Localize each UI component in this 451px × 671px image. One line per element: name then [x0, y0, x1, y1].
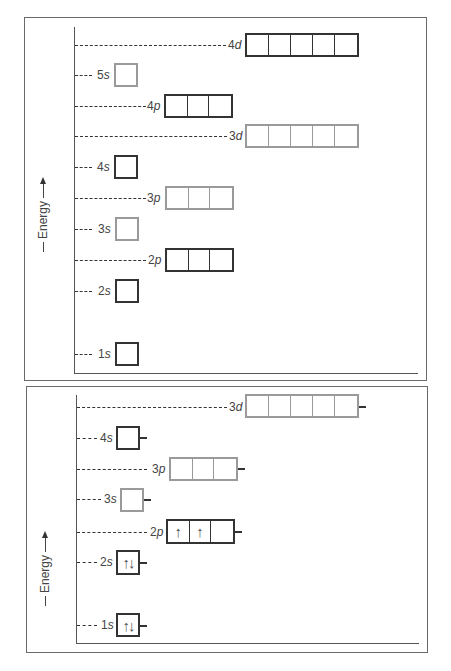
- orbital-label-5s: 5s: [97, 69, 110, 81]
- orbital-5s: [114, 63, 138, 87]
- orbital-label-3p: 3p: [152, 463, 165, 475]
- orbital-box: [193, 459, 215, 479]
- orbital-box: [167, 188, 189, 208]
- orbital-box: [117, 281, 137, 301]
- orbital-1s: [115, 342, 139, 366]
- level-line-1s: [77, 625, 97, 626]
- orbital-box: [210, 188, 232, 208]
- orbital-box: [118, 428, 138, 448]
- orbital-box: [211, 521, 233, 542]
- level-tick: [359, 406, 366, 408]
- level-tick: [140, 437, 147, 439]
- arrow-shaft: [43, 184, 44, 198]
- orbital-box: [189, 250, 211, 270]
- arrow-up-icon: [40, 177, 46, 184]
- orbital-box: [122, 490, 142, 510]
- baseline-axis: [76, 643, 419, 644]
- orbital-box: [167, 250, 189, 270]
- orbital-label-2p: 2p: [148, 254, 161, 266]
- orbital-3s: [115, 217, 139, 241]
- orbital-box: [291, 35, 313, 55]
- level-line-4s: [77, 438, 97, 439]
- level-tick: [144, 499, 151, 501]
- energy-axis-label: Energy: [38, 524, 52, 606]
- level-tick: [140, 625, 147, 627]
- orbital-label-3d: 3d: [229, 401, 242, 413]
- orbital-box: [313, 35, 335, 55]
- orbital-label-4d: 4d: [228, 39, 241, 51]
- orbital-box: ↑: [168, 521, 190, 542]
- baseline-axis: [74, 373, 418, 374]
- orbital-box: [166, 96, 188, 116]
- level-line-3d: [77, 407, 227, 408]
- orbital-2s: [115, 279, 139, 303]
- orbital-box: [269, 396, 291, 416]
- orbital-box: [269, 126, 291, 146]
- orbital-label-3s: 3s: [98, 223, 111, 235]
- orbital-box: [116, 157, 136, 177]
- axis-label-line: [43, 242, 44, 252]
- arrow-up-icon: [42, 531, 48, 538]
- orbital-box: [116, 65, 136, 85]
- orbital-box: [189, 188, 211, 208]
- orbital-4p: [164, 94, 233, 118]
- orbital-box: [188, 96, 210, 116]
- orbital-3d: [245, 124, 359, 148]
- level-tick: [235, 531, 242, 533]
- orbital-2s: ↑↓: [116, 550, 140, 575]
- orbital-label-3d: 3d: [229, 130, 242, 142]
- level-tick: [140, 562, 147, 564]
- level-line-2s: [75, 291, 92, 292]
- orbital-box: [210, 250, 232, 270]
- orbital-box: [247, 35, 269, 55]
- orbital-label-2s: 2s: [100, 556, 113, 568]
- level-line-4d: [75, 45, 226, 46]
- orbital-2p: [165, 248, 234, 272]
- orbital-box: [335, 126, 357, 146]
- orbital-label-3s: 3s: [104, 493, 117, 505]
- energy-axis-label: Energy: [36, 170, 50, 252]
- level-line-2p: [77, 532, 147, 533]
- orbital-box: ↑: [190, 521, 212, 542]
- orbital-box: [209, 96, 231, 116]
- orbital-label-2s: 2s: [98, 285, 111, 297]
- orbital-3d: [245, 394, 359, 418]
- orbital-box: [117, 344, 137, 364]
- level-line-3s: [75, 229, 92, 230]
- level-line-3p: [77, 469, 147, 470]
- level-line-2p: [75, 260, 146, 261]
- level-line-3d: [75, 136, 227, 137]
- orbital-1s: ↑↓: [116, 613, 140, 637]
- orbital-box: [247, 126, 269, 146]
- orbital-label-4s: 4s: [100, 432, 113, 444]
- orbital-2p: ↑↑: [166, 519, 235, 544]
- orbital-box: [291, 396, 313, 416]
- orbital-box: [171, 459, 193, 479]
- orbital-label-1s: 1s: [101, 619, 114, 631]
- level-line-4s: [75, 167, 92, 168]
- orbital-4d: [245, 33, 359, 57]
- level-line-4p: [75, 106, 146, 107]
- orbital-label-4p: 4p: [147, 100, 160, 112]
- orbital-label-4s: 4s: [97, 161, 110, 173]
- orbital-3s: [120, 488, 144, 512]
- level-line-5s: [75, 75, 92, 76]
- orbital-label-3p: 3p: [147, 192, 160, 204]
- orbital-label-2p: 2p: [150, 526, 163, 538]
- orbital-box: [335, 35, 357, 55]
- orbital-3p: [165, 186, 234, 210]
- orbital-4s: [114, 155, 138, 179]
- level-line-1s: [75, 354, 92, 355]
- orbital-box: [313, 396, 335, 416]
- orbital-box: ↑↓: [118, 615, 138, 635]
- orbital-box: [247, 396, 269, 416]
- orbital-box: [214, 459, 236, 479]
- orbital-box: ↑↓: [118, 552, 138, 573]
- axis-label-line: [45, 596, 46, 606]
- energy-axis: [74, 27, 75, 373]
- orbital-label-1s: 1s: [98, 348, 111, 360]
- orbital-box: [291, 126, 313, 146]
- energy-axis: [76, 395, 77, 644]
- orbital-box: [117, 219, 137, 239]
- orbital-3p: [169, 457, 238, 481]
